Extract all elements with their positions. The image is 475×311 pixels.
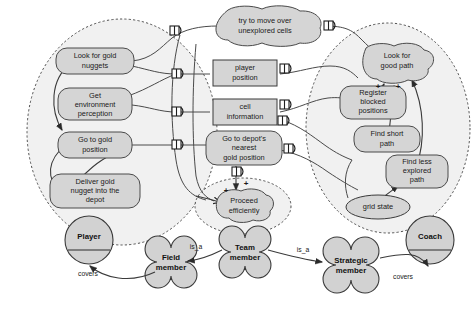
goal-model-diagram: Look for gold nuggets Get environment pe…: [0, 0, 475, 311]
role-strategic-member-label-2: member: [336, 266, 366, 275]
contribution-plus-proceed-left: +: [224, 186, 229, 195]
softgoal-unexplored-label-1: try to move over: [239, 16, 293, 25]
goal-register-label-2: blocked: [360, 97, 385, 106]
softgoal-proceed-label-2: efficiently: [229, 206, 260, 215]
goal-find-short-path-label-1: Find short: [371, 129, 404, 138]
goal-get-environment-perception-label-3: perception: [78, 109, 113, 118]
goal-register-label-3: positions: [358, 106, 387, 115]
goal-register-label-1: Register: [359, 88, 387, 97]
goal-find-less-label-2: explored: [403, 166, 431, 175]
goal-deliver-gold-nugget-label-1: Deliver gold: [75, 177, 114, 186]
role-coach-label: Coach: [418, 232, 442, 241]
port-symbol-cell-info-left[interactable]: [172, 107, 183, 116]
goal-depot-label-2: nearest: [232, 143, 257, 152]
port-symbol-proceed-top[interactable]: [232, 167, 243, 176]
softgoal-good-path-label-2: good path: [381, 61, 414, 70]
resource-player-position-label-2: position: [232, 73, 257, 82]
port-symbol-gold-position[interactable]: [172, 140, 183, 149]
goal-deliver-gold-nugget-label-2: nugget into the: [71, 186, 120, 195]
contribution-plus-path-left: +: [376, 82, 381, 91]
softgoal-unexplored-label-2: unexplored cells: [238, 26, 292, 35]
edge-label-is-a-field: is_a: [190, 243, 203, 251]
resource-player-position-label-1: player: [235, 63, 256, 72]
goal-depot-label-1: Go to depot's: [222, 134, 266, 143]
goal-go-to-gold-position-label-2: position: [82, 145, 107, 154]
port-symbol-unexplored-right[interactable]: [324, 21, 335, 30]
edge-label-is-a-strategic: is_a: [297, 246, 310, 254]
role-strategic-member-label-1: Strategic: [334, 256, 368, 265]
role-team-member-label-1: Team: [235, 243, 255, 252]
port-symbol-unexplored-left[interactable]: [170, 26, 181, 35]
port-symbol-cell-info-right[interactable]: [280, 100, 291, 109]
role-team-member-label-2: member: [230, 253, 260, 262]
softgoal-proceed-label-1: Proceed: [230, 196, 258, 205]
goal-get-environment-perception-label-1: Get: [89, 91, 101, 100]
softgoal-good-path-label-1: Look for: [384, 51, 411, 60]
goal-get-environment-perception-label-2: environment: [75, 100, 116, 109]
contribution-plus-path-right: +: [396, 82, 401, 91]
goal-look-for-gold-nuggets-label-2: nuggets: [82, 61, 109, 70]
goal-go-to-gold-position-label-1: Go to gold: [78, 135, 112, 144]
role-field-member-label-1: Field: [162, 253, 180, 262]
goal-find-less-label-3: path: [410, 175, 424, 184]
goal-find-short-path-label-2: path: [380, 139, 394, 148]
edge-label-covers-player: covers: [78, 270, 99, 277]
edge-label-covers-coach: covers: [393, 273, 414, 280]
resource-cell-information-label-2: information: [227, 112, 264, 121]
edge-team-is-a-strategic: [268, 250, 322, 262]
goal-depot-label-3: gold position: [223, 153, 265, 162]
port-symbol-depot-right[interactable]: [284, 144, 295, 153]
goal-deliver-gold-nugget-label-3: depot: [86, 195, 105, 204]
port-symbol-player-position-right[interactable]: [280, 64, 291, 73]
port-symbol-cell-info-lower[interactable]: [278, 116, 289, 125]
role-player-label: Player: [77, 232, 100, 241]
port-symbol-player-position-left[interactable]: [172, 69, 183, 78]
resource-grid-state-label: grid state: [363, 202, 393, 211]
goal-find-less-label-1: Find less: [402, 157, 432, 166]
goal-look-for-gold-nuggets-label-1: Look for gold: [74, 51, 117, 60]
diagram-canvas: Look for gold nuggets Get environment pe…: [0, 0, 475, 311]
resource-cell-information-label-1: cell: [239, 102, 250, 111]
contribution-plus-proceed-top: +: [244, 179, 249, 188]
role-field-member-label-2: member: [156, 263, 186, 272]
